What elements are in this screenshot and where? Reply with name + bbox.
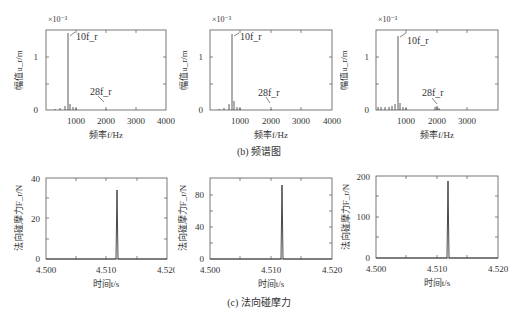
svg-text:4.510: 4.510 [427, 264, 448, 274]
spectrum-chart-1: ×10⁻³ 10f_r 28f_r 1 0 1000 2000 3000 400… [0, 0, 175, 145]
x-axis-label: 时间t/s [424, 277, 451, 288]
y-axis-label: 法向碰摩力F_r/N [340, 183, 351, 250]
svg-text:20: 20 [31, 214, 41, 224]
annotation-28fr: 28f_r [258, 87, 280, 98]
svg-text:3000: 3000 [127, 116, 146, 126]
force-chart-3: 200 100 0 4.500 4.510 4.520 时间t/s 法向碰摩力F… [340, 160, 518, 300]
force-line [210, 185, 332, 259]
svg-text:0: 0 [199, 105, 204, 115]
spectrum-line [378, 36, 439, 110]
svg-text:4.510: 4.510 [96, 265, 117, 275]
annotation-10fr: 10f_r [76, 31, 98, 42]
y-scale-label: ×10⁻³ [212, 15, 232, 24]
annotation-28fr: 28f_r [90, 86, 112, 97]
plot-frame [210, 178, 332, 259]
svg-text:80: 80 [195, 190, 205, 200]
annotation-10fr: 10f_r [407, 35, 429, 46]
plot-frame [376, 30, 498, 110]
svg-text:4.500: 4.500 [366, 264, 387, 274]
force-line [376, 181, 498, 258]
svg-text:1000: 1000 [397, 116, 416, 126]
svg-text:4.520: 4.520 [488, 264, 509, 274]
annotation-28fr: 28f_r [422, 87, 444, 98]
svg-text:1000: 1000 [67, 116, 86, 126]
svg-text:0: 0 [365, 105, 370, 115]
spectrum-chart-3: ×10⁻³ 10f_r 28f_r 1 0 1000 2000 3000 频率f… [340, 0, 518, 145]
y-axis-label: 幅值u_r/m [178, 50, 189, 90]
y-axis-label: 法向碰摩力F_r/N [13, 184, 24, 251]
svg-text:0: 0 [200, 254, 205, 264]
spectrum-line [55, 33, 106, 110]
svg-text:40: 40 [31, 174, 41, 184]
x-axis-label: 频率f/Hz [420, 129, 454, 140]
x-axis-label: 时间t/s [258, 278, 285, 289]
force-chart-2: 80 40 0 4.500 4.510 4.520 时间t/s 法向碰摩力F_r… [170, 160, 345, 300]
svg-text:4000: 4000 [323, 116, 342, 126]
svg-text:0: 0 [36, 254, 41, 264]
spectrum-line [219, 34, 271, 110]
plot-frame [376, 176, 498, 258]
svg-text:3000: 3000 [458, 116, 477, 126]
y-scale-label: ×10⁻³ [378, 15, 398, 24]
plot-frame [46, 178, 167, 259]
spectrum-chart-2: ×10⁻³ 10f_r 28f_r 1 0 1000 2000 3000 400… [170, 0, 345, 145]
svg-text:200: 200 [357, 172, 371, 182]
force-line [46, 190, 167, 259]
y-axis-label: 幅值u_r/m [340, 50, 349, 90]
x-axis-label: 频率f/Hz [254, 129, 288, 140]
svg-text:1: 1 [365, 52, 370, 62]
svg-text:0: 0 [366, 253, 371, 263]
svg-text:4.500: 4.500 [36, 265, 57, 275]
svg-text:0: 0 [34, 105, 39, 115]
svg-text:4.500: 4.500 [200, 265, 221, 275]
svg-text:100: 100 [357, 212, 371, 222]
svg-text:2000: 2000 [428, 116, 447, 126]
plot-frame [46, 30, 166, 110]
svg-text:2000: 2000 [97, 116, 116, 126]
svg-text:1000: 1000 [231, 116, 250, 126]
svg-text:4.510: 4.510 [261, 265, 282, 275]
x-axis-label: 频率f/Hz [89, 129, 123, 140]
y-axis-label: 幅值u_r/m [13, 50, 24, 90]
svg-text:1: 1 [34, 52, 39, 62]
force-chart-1: 40 20 0 4.500 4.510 4.520 时间t/s 法向碰摩力F_r… [0, 160, 175, 300]
svg-text:2000: 2000 [262, 116, 281, 126]
y-axis-label: 法向碰摩力F_r/N [177, 184, 188, 251]
svg-text:1: 1 [199, 52, 204, 62]
svg-text:3000: 3000 [292, 116, 311, 126]
annotation-10fr: 10f_r [240, 31, 262, 42]
y-scale-label: ×10⁻³ [48, 15, 68, 24]
plot-frame [210, 30, 332, 110]
x-axis-label: 时间t/s [93, 278, 120, 289]
svg-text:40: 40 [195, 222, 205, 232]
caption-force: (c) 法向碰摩力 [0, 294, 518, 309]
caption-spectrum: (b) 频谱图 [0, 143, 518, 158]
